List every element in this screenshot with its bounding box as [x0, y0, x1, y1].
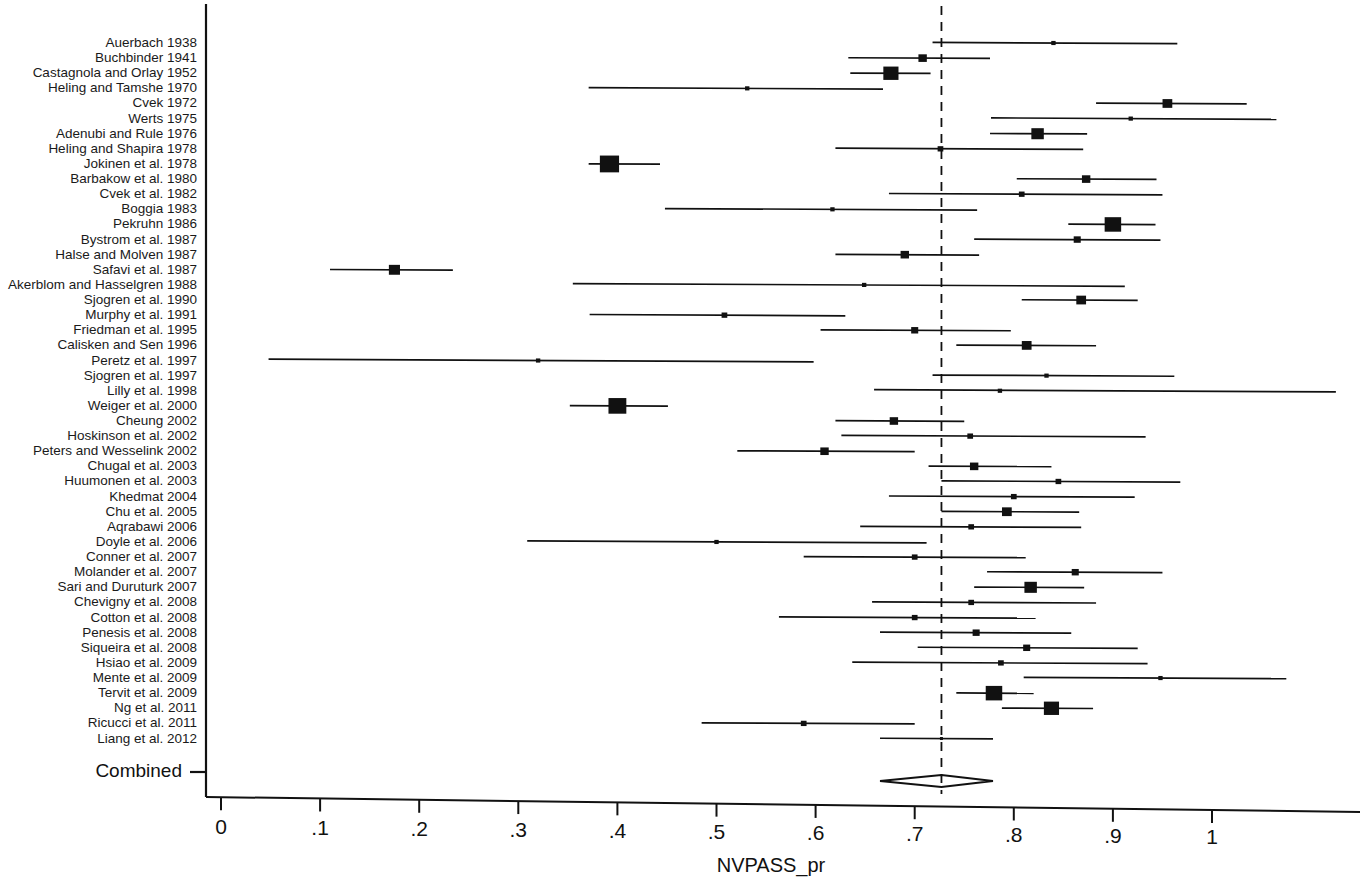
study-label: Lilly et al. 1998 [0, 384, 197, 398]
study-label: Akerblom and Hasselgren 1988 [0, 278, 197, 292]
ci-line [889, 194, 1163, 195]
forest-plot-canvas [0, 0, 1366, 888]
study-label: Cheung 2002 [0, 414, 197, 428]
x-tick-label: .2 [389, 818, 449, 839]
effect-marker [1105, 217, 1122, 232]
effect-marker [1076, 296, 1086, 305]
ci-line [835, 148, 1083, 149]
ci-line [991, 118, 1276, 119]
study-label: Safavi et al. 1987 [0, 263, 197, 277]
study-label: Khedmat 2004 [0, 490, 197, 504]
study-label: Huumonen et al. 2003 [0, 474, 197, 488]
study-label: Doyle et al. 2006 [0, 535, 197, 549]
effect-marker [883, 67, 898, 80]
effect-marker [918, 54, 926, 62]
ci-line [269, 359, 814, 362]
x-axis-line [206, 797, 1360, 812]
effect-marker [1044, 702, 1059, 715]
study-label: Chugal et al. 2003 [0, 459, 197, 473]
ci-line [590, 315, 846, 316]
effect-marker [998, 660, 1004, 665]
study-label: Tervit et al. 2009 [0, 686, 197, 700]
study-label: Heling and Shapira 1978 [0, 142, 197, 156]
effect-marker [973, 629, 980, 635]
ci-line [527, 541, 926, 543]
study-label: Bystrom et al. 1987 [0, 233, 197, 247]
effect-marker [801, 721, 807, 726]
effect-marker [722, 313, 728, 318]
x-tick-label: .9 [1083, 825, 1143, 846]
effect-marker [940, 737, 943, 740]
effect-marker [1023, 645, 1030, 651]
effect-marker [389, 265, 400, 275]
x-tick-label: .1 [290, 817, 350, 838]
effect-marker [1051, 41, 1055, 45]
effect-marker [745, 86, 749, 90]
study-label: Hsiao et al. 2009 [0, 656, 197, 670]
effect-marker [1072, 569, 1079, 575]
study-label: Pekruhn 1986 [0, 217, 197, 231]
ci-line [835, 421, 964, 422]
effect-marker [911, 327, 918, 333]
combined-diamond [880, 775, 993, 787]
study-label: Conner et al. 2007 [0, 550, 197, 564]
study-label: Heling and Tamshe 1970 [0, 81, 197, 95]
x-tick-label: .5 [687, 821, 747, 842]
effect-marker [1074, 236, 1081, 242]
study-label: Werts 1975 [0, 112, 197, 126]
effect-marker [830, 207, 834, 211]
effect-marker [1158, 676, 1162, 680]
study-label: Aqrabawi 2006 [0, 520, 197, 534]
x-tick-label: .8 [984, 824, 1044, 845]
effect-marker [1024, 582, 1036, 593]
ci-line [702, 723, 915, 724]
effect-marker [938, 146, 944, 151]
ci-line [974, 239, 1160, 240]
x-axis-title: NVPASS_pr [631, 855, 911, 875]
study-label: Adenubi and Rule 1976 [0, 127, 197, 141]
study-label: Jokinen et al. 1978 [0, 157, 197, 171]
study-label: Castagnola and Orlay 1952 [0, 66, 197, 80]
study-label: Cvek et al. 1982 [0, 187, 197, 201]
effect-marker [1082, 175, 1090, 183]
ci-line [665, 209, 977, 211]
combined-label: Combined [0, 761, 182, 780]
effect-marker [1031, 128, 1043, 139]
effect-marker [901, 251, 909, 259]
ci-line [573, 284, 1125, 287]
x-tick-label: .6 [786, 822, 846, 843]
effect-marker [1019, 192, 1025, 197]
ci-line [841, 435, 1145, 437]
x-tick-label: .7 [885, 823, 945, 844]
effect-marker [1044, 374, 1048, 378]
study-label: Sjogren et al. 1997 [0, 369, 197, 383]
effect-marker [912, 554, 918, 559]
effect-marker [1129, 117, 1133, 121]
effect-marker [1011, 494, 1017, 499]
effect-marker [820, 447, 828, 455]
effect-marker [1056, 479, 1062, 484]
effect-marker [967, 433, 973, 438]
effect-marker [1002, 507, 1012, 516]
study-label: Boggia 1983 [0, 202, 197, 216]
study-label: Murphy et al. 1991 [0, 308, 197, 322]
effect-marker [968, 524, 974, 529]
study-label: Cvek 1972 [0, 96, 197, 110]
study-label: Chevigny et al. 2008 [0, 595, 197, 609]
study-label: Liang et al. 2012 [0, 732, 197, 746]
effect-marker [536, 358, 540, 362]
study-label: Halse and Molven 1987 [0, 248, 197, 262]
ci-line [779, 617, 1036, 618]
study-label: Buchbinder 1941 [0, 51, 197, 65]
effect-marker [912, 615, 918, 620]
x-tick-label: 1 [1182, 826, 1242, 847]
x-tick-label: 0 [191, 816, 251, 837]
ci-line [874, 390, 1336, 392]
ci-line [929, 466, 1052, 467]
effect-marker [968, 600, 974, 605]
ci-line [872, 602, 1096, 603]
study-label: Friedman et al. 1995 [0, 323, 197, 337]
effect-marker [1022, 341, 1032, 350]
study-label: Hoskinson et al. 2002 [0, 429, 197, 443]
study-label: Siqueira et al. 2008 [0, 641, 197, 655]
